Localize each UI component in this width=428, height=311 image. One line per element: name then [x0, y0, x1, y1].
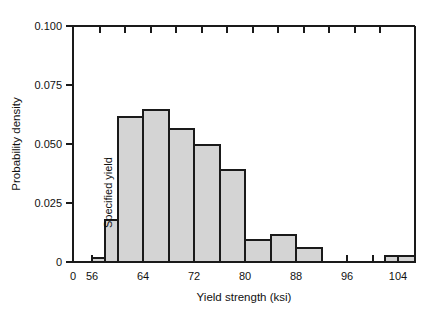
table-row [271, 235, 296, 262]
x-tick-label-104: 104 [389, 270, 407, 282]
x-tick-label-96: 96 [341, 270, 353, 282]
y-tick-label-0: 0 [56, 256, 62, 268]
table-row [194, 145, 220, 262]
table-row [169, 129, 194, 262]
x-tick-label-56: 56 [86, 270, 98, 282]
table-row [220, 170, 245, 262]
specified-yield-label: Specified yield [102, 157, 114, 228]
x-tick-label-72: 72 [188, 270, 200, 282]
y-tick-label-0.100: 0.100 [34, 20, 62, 32]
table-row [245, 240, 271, 262]
x-tick-label-64: 64 [137, 270, 149, 282]
x-tick-label-0: 0 [70, 270, 76, 282]
x-tick-label-80: 80 [239, 270, 251, 282]
table-row [118, 117, 143, 262]
y-tick-label-0.025: 0.025 [34, 197, 62, 209]
table-row [296, 248, 322, 262]
table-row [92, 258, 105, 262]
y-tick-label-0.075: 0.075 [34, 79, 62, 91]
table-row [143, 110, 169, 262]
y-axis-title: Probability density [10, 97, 22, 191]
histogram-figure: 0.100 0.075 0.050 0.025 0 [0, 0, 428, 311]
histogram-svg: 0.100 0.075 0.050 0.025 0 [0, 0, 428, 311]
x-tick-label-88: 88 [290, 270, 302, 282]
y-tick-label-0.050: 0.050 [34, 138, 62, 150]
x-axis-title: Yield strength (ksi) [197, 291, 292, 303]
table-row [385, 256, 415, 262]
